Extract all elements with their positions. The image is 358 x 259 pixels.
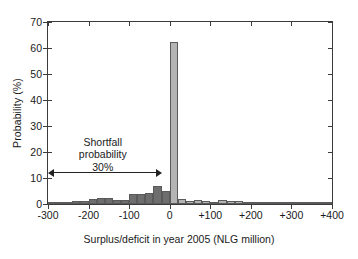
y-tick-label: 0 xyxy=(36,199,42,209)
bar xyxy=(308,202,316,204)
bar xyxy=(251,202,259,204)
x-tick-label: -100 xyxy=(119,210,140,221)
bar xyxy=(170,42,178,204)
bar xyxy=(316,202,324,204)
bar xyxy=(194,200,202,204)
y-axis-title: Probability (%) xyxy=(10,20,24,206)
x-axis-title: Surplus/deficit in year 2005 (NLG millio… xyxy=(0,233,358,246)
x-tick-mark-top xyxy=(48,22,49,26)
x-tick-mark-top xyxy=(251,22,252,26)
y-tick-mark-right xyxy=(328,100,332,101)
shortfall-annotation-line2: probability xyxy=(43,148,163,161)
x-tick-mark-top xyxy=(210,22,211,26)
bar xyxy=(97,198,105,204)
bar xyxy=(218,200,226,204)
x-tick-label: +300 xyxy=(280,210,304,221)
y-tick-mark-right xyxy=(328,126,332,127)
y-tick-mark-inner xyxy=(48,178,52,179)
x-tick-mark-top xyxy=(332,22,333,26)
y-tick-mark-inner xyxy=(48,126,52,127)
chart-figure: Probability (%) 010203040506070 -300-200… xyxy=(0,0,358,259)
bar xyxy=(283,202,291,204)
x-tick-mark-top xyxy=(129,22,130,26)
y-tick-label: 20 xyxy=(30,147,42,157)
bar xyxy=(235,201,243,204)
bar xyxy=(105,198,113,204)
y-tick-mark-right xyxy=(328,74,332,75)
shortfall-range-arrow xyxy=(48,168,162,177)
x-tick-label: +400 xyxy=(320,210,344,221)
x-tick-label: -300 xyxy=(37,210,58,221)
bar xyxy=(162,191,170,204)
bar xyxy=(137,194,145,204)
bar xyxy=(72,201,80,204)
y-tick-mark-right xyxy=(328,152,332,153)
x-tick-mark-top xyxy=(89,22,90,26)
y-tick-label: 30 xyxy=(30,121,42,131)
bar xyxy=(56,202,64,204)
bar xyxy=(243,202,251,204)
bar xyxy=(210,202,218,204)
bar xyxy=(89,199,97,204)
arrow-right-head-icon xyxy=(156,169,162,177)
bar xyxy=(227,201,235,204)
x-tick-label: +200 xyxy=(239,210,263,221)
y-tick-label: 40 xyxy=(30,95,42,105)
x-tick-label: +100 xyxy=(198,210,222,221)
y-tick-mark-right xyxy=(328,178,332,179)
bar xyxy=(267,202,275,204)
y-tick-label: 10 xyxy=(30,173,42,183)
y-tick-label: 60 xyxy=(30,43,42,53)
shortfall-annotation-line1: Shortfall xyxy=(43,136,163,149)
bar xyxy=(129,194,137,204)
y-tick-mark-inner xyxy=(48,100,52,101)
bar xyxy=(186,201,194,204)
x-tick-mark-top xyxy=(291,22,292,26)
y-tick-mark-right xyxy=(328,48,332,49)
y-tick-mark-inner xyxy=(48,74,52,75)
bar xyxy=(145,193,153,204)
bar xyxy=(153,186,161,204)
x-tick-label: -200 xyxy=(78,210,99,221)
bar xyxy=(80,201,88,204)
bar xyxy=(121,200,129,204)
plot-area: 010203040506070 -300-200-1000+100+200+30… xyxy=(47,21,333,205)
bar xyxy=(178,199,186,204)
arrow-line xyxy=(51,172,159,173)
y-tick-mark-inner xyxy=(48,48,52,49)
y-tick-label: 70 xyxy=(30,17,42,27)
bar xyxy=(64,202,72,204)
x-tick-label: 0 xyxy=(167,210,173,221)
bar xyxy=(202,201,210,204)
y-tick-label: 50 xyxy=(30,69,42,79)
bar xyxy=(259,202,267,204)
bar xyxy=(291,202,299,204)
bar xyxy=(113,200,121,204)
x-tick-mark-top xyxy=(170,22,171,26)
bar xyxy=(275,202,283,204)
bar xyxy=(300,202,308,204)
